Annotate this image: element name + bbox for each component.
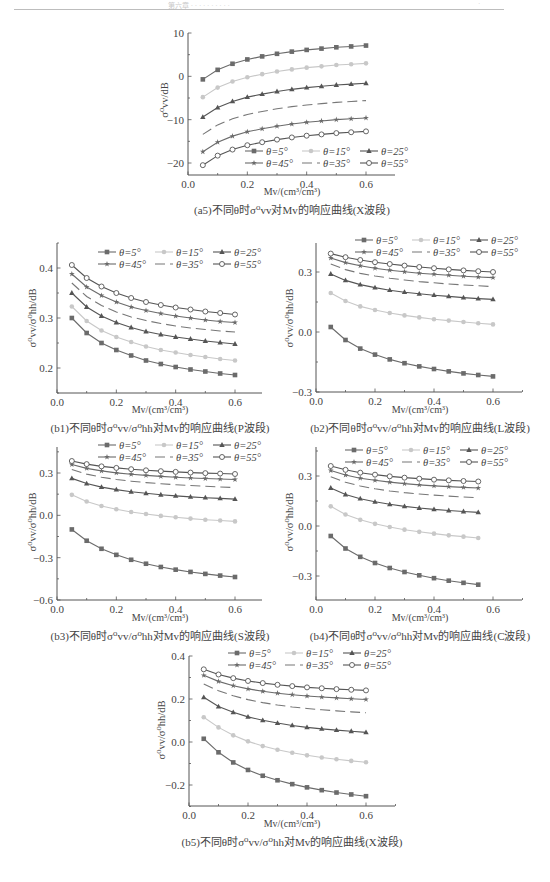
open-circle-marker-icon <box>275 137 280 142</box>
square-marker-icon <box>260 773 265 778</box>
y-tick-label: 0.4 <box>171 650 185 662</box>
open-circle-marker-icon <box>144 300 149 305</box>
circle-marker-icon <box>432 531 437 536</box>
legend-label: θ=15° <box>323 146 351 157</box>
open-circle-marker-icon <box>158 303 163 308</box>
y-tick-label: −20 <box>167 157 185 169</box>
legend-item-theta55: θ=55° <box>360 158 409 169</box>
x-tick-label: 0.0 <box>50 396 64 408</box>
series-theta45 <box>69 271 238 325</box>
open-circle-marker-icon <box>349 687 354 692</box>
square-marker-icon <box>203 369 208 374</box>
square-marker-icon <box>461 371 466 376</box>
legend-label: θ=45° <box>376 247 404 258</box>
square-marker-icon <box>334 790 339 795</box>
open-circle-marker-icon <box>173 305 178 310</box>
y-tick-label: 0.2 <box>39 362 53 374</box>
legend-label: θ=5° <box>266 146 288 157</box>
circle-marker-icon <box>417 315 422 320</box>
series-theta55 <box>69 263 237 318</box>
square-marker-icon <box>364 43 369 48</box>
circle-marker-icon <box>70 493 75 498</box>
square-marker-icon <box>402 361 407 366</box>
star-marker-icon <box>200 149 206 155</box>
square-marker-icon <box>358 346 363 351</box>
square-marker-icon <box>417 364 422 369</box>
x-axis-label: Mv/(cm³/cm³) <box>100 612 220 623</box>
open-circle-marker-icon <box>99 464 104 469</box>
open-circle-marker-icon <box>476 479 481 484</box>
open-circle-marker-icon <box>387 262 392 267</box>
circle-marker-icon <box>402 313 407 318</box>
circle-marker-icon <box>373 308 378 313</box>
square-marker-icon <box>432 576 437 581</box>
square-marker-icon <box>173 365 178 370</box>
square-marker-icon <box>129 353 134 358</box>
square-marker-icon <box>290 782 295 787</box>
square-marker-icon <box>114 553 119 558</box>
square-marker-icon <box>144 561 149 566</box>
open-circle-marker-icon <box>69 263 74 268</box>
x-tick-label: 0.6 <box>228 603 242 615</box>
y-tick-label: 0.3 <box>298 266 312 278</box>
legend-label: θ=45° <box>249 660 277 671</box>
square-marker-icon <box>173 567 178 572</box>
open-circle-marker-icon <box>220 455 225 460</box>
legend-item-theta35: θ=35° <box>412 247 461 258</box>
circle-marker-icon <box>218 518 223 523</box>
open-circle-marker-icon <box>114 465 119 470</box>
square-marker-icon <box>476 373 481 378</box>
triangle-marker-icon <box>328 485 333 490</box>
open-circle-marker-icon <box>350 663 355 668</box>
circle-marker-icon <box>305 753 310 758</box>
open-circle-marker-icon <box>200 163 205 168</box>
x-axis-label: Mv/(cm³/cm³) <box>232 818 352 829</box>
open-circle-marker-icon <box>334 687 339 692</box>
series-theta15 <box>328 504 480 540</box>
legend-label: θ=55° <box>234 259 262 270</box>
legend-item-theta5: θ=5° <box>98 440 141 451</box>
series-theta55 <box>69 459 237 477</box>
circle-marker-icon <box>402 527 407 532</box>
y-tick-label: 0.0 <box>39 509 53 521</box>
square-marker-icon <box>461 581 466 586</box>
square-marker-icon <box>387 357 392 362</box>
circle-marker-icon <box>233 519 238 524</box>
circle-marker-icon <box>173 515 178 520</box>
legend-label: θ=55° <box>364 660 392 671</box>
circle-marker-icon <box>319 755 324 760</box>
legend-item-theta25: θ=25° <box>343 648 392 659</box>
open-circle-marker-icon <box>343 255 348 260</box>
legend-item-theta55: θ=55° <box>470 247 519 258</box>
legend-label: θ=25° <box>491 235 519 246</box>
circle-marker-icon <box>328 291 333 296</box>
circle-marker-icon <box>260 744 265 749</box>
square-marker-icon <box>476 582 481 587</box>
circle-marker-icon <box>203 517 208 522</box>
series-theta5 <box>70 316 238 378</box>
triangle-marker-icon <box>69 475 74 480</box>
square-marker-icon <box>231 760 236 765</box>
open-circle-marker-icon <box>319 132 324 137</box>
square-marker-icon <box>105 443 110 448</box>
circle-marker-icon <box>309 149 314 154</box>
legend-label: θ=5° <box>119 440 141 451</box>
legend-label: θ=25° <box>234 247 262 258</box>
series-theta5 <box>201 736 368 798</box>
legend-item-theta35: θ=35° <box>402 457 451 468</box>
square-marker-icon <box>328 534 333 539</box>
square-marker-icon <box>319 46 324 51</box>
open-circle-marker-icon <box>364 129 369 134</box>
circle-marker-icon <box>290 750 295 755</box>
y-axis-label: σ⁰vv/dB <box>159 82 170 118</box>
open-circle-marker-icon <box>201 667 206 672</box>
legend-label: θ=25° <box>381 146 409 157</box>
legend-item-theta45: θ=45° <box>228 660 277 671</box>
open-circle-marker-icon <box>114 291 119 296</box>
legend-item-theta15: θ=15° <box>412 235 461 246</box>
square-marker-icon <box>70 527 75 532</box>
square-marker-icon <box>275 778 280 783</box>
series-theta15 <box>201 715 368 765</box>
figure-caption-a5: (a5)不同θ时σ⁰vv对Mv的响应曲线(X波段) <box>162 201 422 217</box>
square-marker-icon <box>233 373 238 378</box>
